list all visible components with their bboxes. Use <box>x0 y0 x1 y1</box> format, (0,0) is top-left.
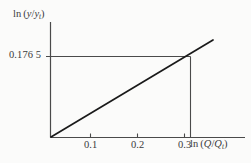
data-line-linear-fit <box>51 40 213 137</box>
y-axis-title-text: ln (y/yt) <box>13 8 45 19</box>
figure-container: ln (y/yt) 0.176 5 0.1 0.2 0.3 ln (Q/Qt) <box>0 0 251 163</box>
x-axis-title-text: ln (Q/Qt) <box>190 138 227 149</box>
y-axis-title: ln (y/yt) <box>13 9 45 21</box>
x-axis-title: ln (Q/Qt) <box>190 139 227 151</box>
x-tick-label-0: 0.1 <box>84 140 97 151</box>
x-tick-label-1: 0.2 <box>131 140 144 151</box>
y-tick-label-0: 0.176 5 <box>9 50 41 61</box>
